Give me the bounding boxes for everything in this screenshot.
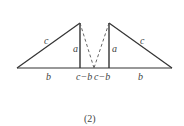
- label-right-gap: c−b: [94, 71, 110, 82]
- diagram-canvas: c a b c−b c−b a c b (2): [0, 0, 184, 126]
- figure-caption: (2): [84, 113, 96, 125]
- label-right-b: b: [138, 71, 143, 82]
- left-dashed-line: [80, 23, 94, 68]
- label-left-gap: c−b: [76, 71, 92, 82]
- label-left-b: b: [46, 71, 51, 82]
- label-right-c: c: [140, 35, 145, 46]
- left-hypotenuse: [17, 23, 80, 68]
- right-dashed-line: [94, 23, 109, 68]
- label-right-a: a: [112, 43, 117, 54]
- label-left-a: a: [73, 43, 78, 54]
- label-left-c: c: [44, 35, 49, 46]
